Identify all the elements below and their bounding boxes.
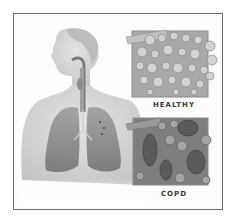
copd-label: COPD [140,190,208,198]
healthy-alveoli-panel [126,30,217,97]
copd-alveoli-panel [126,118,211,185]
healthy-label: HEALTHY [140,101,208,109]
anatomy-illustration [0,0,233,218]
